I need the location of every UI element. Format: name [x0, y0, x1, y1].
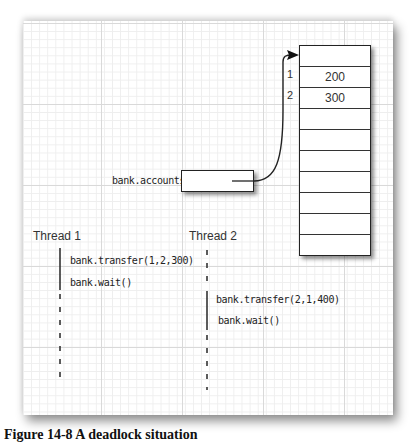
figure-caption: Figure 14-8 A deadlock situation	[4, 427, 197, 443]
reference-arrow	[254, 55, 292, 181]
